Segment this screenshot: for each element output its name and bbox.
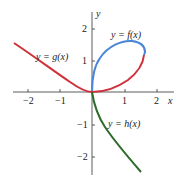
x-tick-label: −1 [55,95,66,106]
x-tick-label: −2 [23,95,34,106]
x-axis-label: x [167,95,173,106]
y-tick-label: −2 [77,151,88,162]
label-f: y = f(x) [110,29,142,41]
y-tick-label: 2 [82,23,87,34]
curve-g [14,43,144,92]
curve-h [92,92,141,172]
y-tick-label: 1 [82,55,87,66]
curve-f [92,41,145,92]
label-h: y = h(x) [107,118,141,130]
x-tick-label: 2 [154,95,159,106]
y-axis-label: y [95,8,101,19]
label-g: y = g(x) [35,51,69,63]
y-tick-label: −1 [77,119,88,130]
x-tick-label: 1 [122,95,127,106]
chart: −2 −1 1 2 x 2 1 −1 −2 y y = f(x) y = g(x… [0,0,182,187]
